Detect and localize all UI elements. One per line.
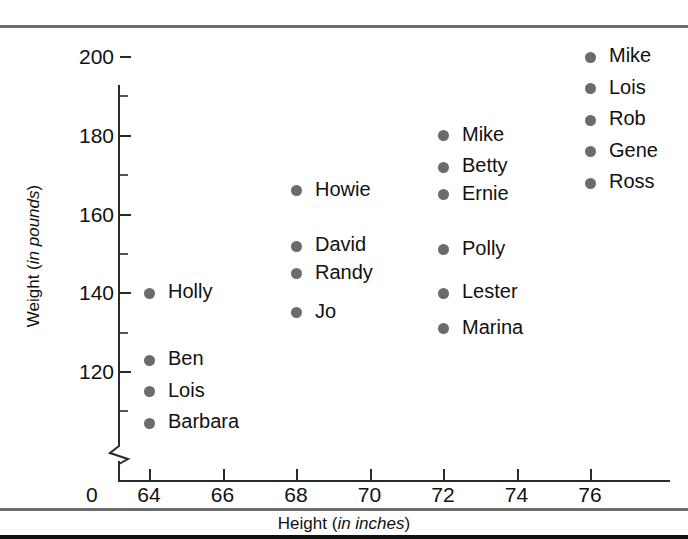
x-tick-64 [149,469,151,480]
y-tick-160 [120,214,131,216]
y-tick-180 [120,135,131,137]
x-tick-74 [517,469,519,480]
x-tick-label-wrap-66: 66 [193,484,253,506]
data-point[interactable] [291,268,302,279]
x-tick-70 [370,469,372,480]
x-tick-label-76: 76 [578,483,601,506]
x-axis-title-tail: ) [404,514,410,533]
figure-page: 120140160180200 64666870727476 HollyBenL… [0,0,688,539]
x-tick-label-wrap-64: 64 [119,484,179,506]
y-tick-label-160: 160 [48,204,114,225]
y-axis-title: Weight (in pounds) [24,156,44,356]
data-point[interactable] [585,146,596,157]
data-point-label: Lois [609,77,646,97]
x-tick-76 [590,469,592,480]
data-point[interactable] [585,115,596,126]
data-point[interactable] [438,244,449,255]
y-axis-origin-label: 0 [86,484,98,505]
data-point-label: David [315,234,366,254]
y-axis-break-icon [108,440,134,466]
y-tick-label-200: 200 [48,46,114,67]
x-tick-label-wrap-74: 74 [487,484,547,506]
x-axis-title-italic: in inches [337,514,404,533]
y-axis-title-italic: in pounds [24,190,43,264]
y-tick-120 [120,371,131,373]
x-tick-label-66: 66 [211,483,234,506]
data-point-label: Mike [462,124,504,144]
data-point[interactable] [585,83,596,94]
data-point[interactable] [438,162,449,173]
x-tick-label-64: 64 [137,483,160,506]
x-tick-66 [223,469,225,480]
data-point[interactable] [144,288,155,299]
data-point-label: Polly [462,238,505,258]
x-tick-label-wrap-72: 72 [413,484,473,506]
y-minor-tick-170 [120,174,128,176]
y-tick-140 [120,292,131,294]
x-tick-label-wrap-76: 76 [560,484,620,506]
x-tick-72 [443,469,445,480]
data-point[interactable] [438,130,449,141]
scatter-plot: 120140160180200 64666870727476 HollyBenL… [0,28,688,508]
data-point[interactable] [144,355,155,366]
data-point-label: Marina [462,317,523,337]
y-tick-label-wrap-180: 180 [44,136,114,137]
data-point-label: Barbara [168,411,239,431]
x-tick-label-68: 68 [284,483,307,506]
data-point[interactable] [585,52,596,63]
x-tick-label-wrap-70: 70 [340,484,400,506]
x-tick-68 [296,469,298,480]
data-point-label: Howie [315,179,371,199]
data-point-label: Ben [168,348,204,368]
x-axis-title-plain: Height ( [278,514,338,533]
y-tick-label-wrap-160: 160 [44,215,114,216]
data-point-label: Gene [609,140,658,160]
y-minor-tick-130 [120,332,128,334]
x-axis-line [118,480,670,482]
y-minor-tick-150 [120,253,128,255]
y-tick-label-180: 180 [48,125,114,146]
data-point-label: Ross [609,171,655,191]
y-tick-label-wrap-120: 120 [44,372,114,373]
data-point[interactable] [291,307,302,318]
data-point[interactable] [291,241,302,252]
y-tick-200 [120,56,131,58]
data-point-label: Rob [609,108,646,128]
data-point-label: Lois [168,380,205,400]
data-point-label: Mike [609,45,651,65]
x-tick-label-70: 70 [358,483,381,506]
x-axis-title: Height (in inches) [0,514,688,534]
data-point[interactable] [585,178,596,189]
x-tick-label-wrap-68: 68 [266,484,326,506]
data-point[interactable] [144,418,155,429]
data-point-label: Jo [315,301,336,321]
y-tick-label-wrap-140: 140 [44,293,114,294]
data-point[interactable] [438,323,449,334]
y-tick-label-140: 140 [48,282,114,303]
y-axis-line [118,85,120,443]
data-point-label: Randy [315,262,373,282]
x-tick-label-72: 72 [431,483,454,506]
page-bottom-rule [0,535,688,539]
data-point-label: Lester [462,281,518,301]
x-tick-label-74: 74 [505,483,528,506]
data-point[interactable] [438,288,449,299]
y-minor-tick-190 [120,95,128,97]
y-tick-label-wrap-200: 200 [44,57,114,58]
data-point-label: Betty [462,155,508,175]
bottom-divider-rule [0,508,688,511]
y-axis-title-plain: Weight ( [24,264,43,327]
data-point[interactable] [291,185,302,196]
data-point[interactable] [144,386,155,397]
data-point-label: Holly [168,281,212,301]
y-tick-label-120: 120 [48,361,114,382]
y-axis-title-tail: ) [24,185,43,191]
y-minor-tick-110 [120,410,128,412]
data-point-label: Ernie [462,183,509,203]
data-point[interactable] [438,189,449,200]
